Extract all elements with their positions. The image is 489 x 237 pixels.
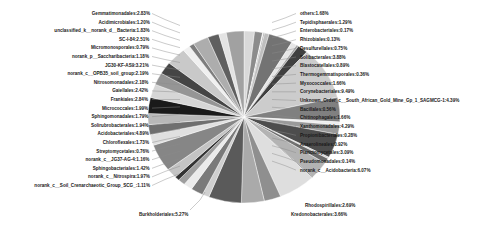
pie-label-left: norank_c__Soil_Crenarchaeotic_Group_SCG_… — [34, 183, 150, 189]
pie-label-left: SC-I-84:2.51% — [119, 37, 149, 43]
pie-label-left: Chloroflexales:1.73% — [103, 140, 149, 146]
pie-label-left: Streptomycetales:0.76% — [96, 149, 149, 155]
pie-label-right: Tepidisphaerales:1.29% — [300, 20, 352, 26]
pie-label-left: norank_c__OPB35_soil_group:2.19% — [67, 71, 148, 77]
pie-chart-figure: Gemmatimonadales:2.83%Acidimicrobiales:1… — [0, 0, 489, 237]
pie-label-bottom: Rhodospirillales:2.69% — [305, 203, 355, 209]
leader-line — [272, 31, 296, 38]
pie-label-right: Myxococcales:1.66% — [300, 81, 346, 87]
leader-line — [272, 14, 296, 23]
leader-line — [152, 31, 180, 41]
pie-label-right: Unknown_Order_c__South_African_Gold_Mine… — [300, 98, 459, 104]
leader-line — [272, 22, 296, 30]
pie-label-right: Blastocatellales:0.89% — [300, 63, 349, 69]
pie-label-right: Solibacterales:3.88% — [300, 55, 346, 61]
pie-label-left: Frankiales:2.84% — [111, 97, 148, 103]
pie-label-left: Sphingomonadales:1.79% — [91, 114, 148, 120]
pie-label-left: norank_c__Nitrospira:1.97% — [88, 174, 150, 180]
pie-label-left: norank_c__JG37-AG-4:1.16% — [86, 157, 150, 163]
pie-chart-canvas — [0, 0, 489, 237]
pie-label-right: Xanthomonadales:4.29% — [300, 124, 354, 130]
pie-label-right: Chitinophagales:1.66% — [300, 115, 350, 121]
pie-label-right: Bacillales:0.56% — [300, 107, 336, 113]
pie-label-bottom: Burkholderiales:5.27% — [139, 212, 188, 218]
pie-label-right: Corynebacteriales:9.49% — [300, 89, 354, 95]
pie-label-left: unclassified_k__norank_d__Bacteria:1.83% — [54, 28, 149, 34]
pie-label-right: Enterobacteriales:0.17% — [300, 28, 353, 34]
pie-label-left: Gaiellales:2.42% — [112, 88, 148, 94]
pie-label-bottom: Kredonobacterales:3.66% — [291, 212, 347, 218]
pie-label-left: Solirubrobacterales:1.94% — [91, 123, 149, 129]
pie-label-left: Nitrosomonadales:2.18% — [94, 80, 149, 86]
pie-label-right: Propionibacteriales:0.28% — [300, 133, 357, 139]
pie-label-left: JG30-KF-AS9:3.21% — [105, 63, 149, 69]
leader-line — [152, 48, 180, 55]
pie-label-left: Micromonosporales:0.79% — [91, 45, 149, 51]
pie-label-left: norank_p__Saccharibacteria:1.18% — [72, 54, 149, 60]
leader-line — [152, 39, 180, 47]
pie-label-right: others:1.68% — [300, 11, 329, 17]
pie-label-left: Gemmatimonadales:2.83% — [92, 11, 150, 17]
pie-label-right: Rhizobiales:0.13% — [300, 37, 340, 43]
pie-label-left: Sphingobacteriales:1.42% — [93, 166, 150, 172]
pie-label-right: Pseudomonadales:0.14% — [300, 159, 355, 165]
pie-label-right: Thermogemmatisporales:0.36% — [300, 72, 369, 78]
pie-label-left: Micrococcales:1.99% — [102, 106, 148, 112]
pie-label-right: Anaerolineales:0.92% — [300, 142, 347, 148]
pie-label-right: Desulfurellales:0.75% — [300, 46, 347, 52]
pie-label-right: norank_c__Acidobacteria:6.07% — [300, 168, 370, 174]
pie-label-right: Planctomycetales:3.09% — [300, 150, 353, 156]
pie-label-left: Acidimicrobiales:1.20% — [98, 20, 149, 26]
pie-label-left: Acidobacteriales:4.89% — [97, 131, 148, 137]
